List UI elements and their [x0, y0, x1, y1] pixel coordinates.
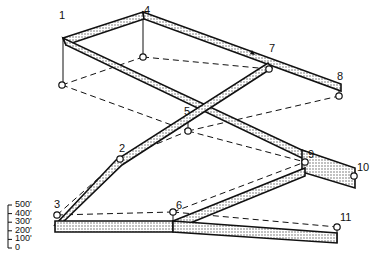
point-label-10: 10 — [357, 162, 369, 173]
ground-projection-lines — [57, 57, 354, 227]
scale-tick-0: 0 — [15, 243, 20, 252]
point-2-marker — [117, 156, 123, 162]
band-6-9 — [173, 168, 305, 228]
point-label-3: 3 — [54, 199, 60, 210]
point-label-8: 8 — [337, 71, 343, 82]
point-8-marker — [336, 93, 342, 99]
point-label-6: 6 — [176, 200, 182, 211]
point-label-7: 7 — [269, 43, 275, 54]
band-6-11 — [173, 221, 337, 243]
band-1-9 — [63, 38, 306, 160]
point-label-9: 9 — [308, 149, 314, 160]
band-3-6 — [55, 221, 173, 232]
point-4-marker — [140, 54, 146, 60]
route-diagram — [0, 0, 375, 253]
point-3-marker — [54, 212, 60, 218]
point-label-1: 1 — [59, 10, 65, 21]
elevation-scale: 500' 400' 300' 200' 100' 0 — [3, 202, 47, 250]
point-5-marker — [185, 128, 191, 134]
point-10-marker — [351, 173, 357, 179]
point-label-5: 5 — [184, 106, 190, 117]
point-1-marker — [59, 82, 65, 88]
point-11-marker — [334, 224, 340, 230]
point-label-2: 2 — [119, 143, 125, 154]
route-bands — [55, 12, 355, 243]
point-label-4: 4 — [144, 5, 150, 16]
point-label-11: 11 — [340, 212, 351, 223]
point-7-marker — [266, 66, 272, 72]
band-1-4 — [63, 12, 144, 45]
